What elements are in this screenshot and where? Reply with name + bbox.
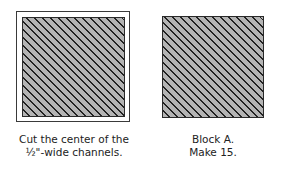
hatched-square-channels [22, 17, 125, 117]
left-caption-line-1: Cut the center of the [8, 133, 140, 146]
hatched-square-block-a [162, 16, 264, 118]
left-caption-line-2: ½"-wide channels. [8, 146, 140, 159]
right-caption-line-2: Make 15. [163, 146, 263, 159]
right-caption: Block A. Make 15. [163, 133, 263, 159]
right-caption-line-1: Block A. [163, 133, 263, 146]
left-caption: Cut the center of the ½"-wide channels. [8, 133, 140, 159]
